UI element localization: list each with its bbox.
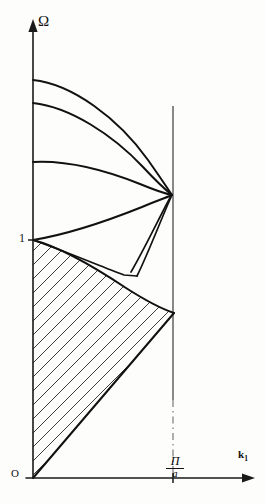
branch-curve-1 [33,80,172,195]
hatched-continuum-region [0,240,265,500]
branch-curve-5-inner [131,196,171,272]
branch-curve-2 [33,103,172,195]
continuum-upper-boundary [33,240,174,313]
x-axis-arrow [242,473,255,482]
origin-label: O [11,468,19,479]
y-axis-label: Ω [38,14,49,29]
hatch-lines [0,240,265,500]
y-tick-label-one: 1 [19,232,25,244]
branch-curve-3 [33,162,172,195]
x-axis-label-subscript: 1 [244,454,248,463]
continuum-lower-boundary [33,313,174,478]
dispersion-plot [0,0,265,504]
dispersion-figure: Ω k1 1 O Π a [0,0,265,504]
x-tick-label-pi-over-a: Π a [163,455,187,479]
y-axis-arrow [28,19,37,32]
pi-numerator: Π [163,455,187,468]
a-denominator: a [163,469,187,480]
x-axis-label: k1 [238,449,248,463]
